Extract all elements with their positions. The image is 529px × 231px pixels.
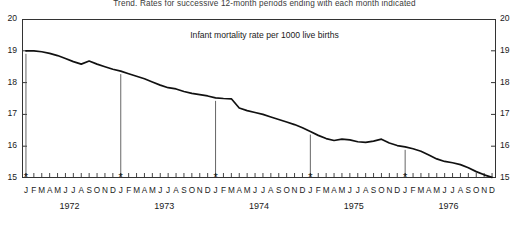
- year-marker-asterisk: *: [403, 171, 408, 183]
- year-marker-asterisk: *: [213, 171, 218, 183]
- year-label: 1973: [134, 202, 194, 211]
- y-tick-label-left: 15: [1, 173, 17, 182]
- y-tick-label-left: 19: [1, 46, 17, 55]
- y-tick-label-right: 17: [500, 109, 518, 118]
- data-line-infant-mortality: [26, 51, 492, 178]
- chart-container: Trend. Rates for successive 12-month per…: [0, 0, 529, 231]
- y-tick-label-left: 16: [1, 141, 17, 150]
- y-tick-label-right: 18: [500, 78, 518, 87]
- y-tick-label-right: 16: [500, 141, 518, 150]
- year-label: 1974: [229, 202, 289, 211]
- y-tick-label-right: 15: [500, 173, 518, 182]
- year-label: 1975: [324, 202, 384, 211]
- year-marker-asterisk: *: [119, 171, 124, 183]
- year-marker-asterisk: *: [308, 171, 313, 183]
- y-tick-label-left: 17: [1, 109, 17, 118]
- y-tick-label-right: 20: [500, 14, 518, 23]
- month-tick-label: D: [486, 187, 498, 195]
- year-label: 1976: [419, 202, 479, 211]
- y-tick-label-right: 19: [500, 46, 518, 55]
- year-marker-asterisk: *: [24, 171, 29, 183]
- year-label: 1972: [39, 202, 99, 211]
- chart-graphics: *****: [0, 0, 529, 231]
- y-tick-label-left: 20: [1, 14, 17, 23]
- y-tick-label-left: 18: [1, 78, 17, 87]
